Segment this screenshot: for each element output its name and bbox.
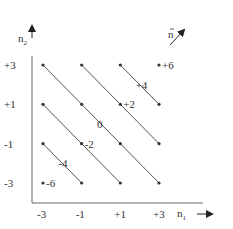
line-sum-label: +2: [123, 98, 135, 110]
x-tick-label: -3: [37, 208, 47, 220]
point-sum-label: +6: [162, 59, 174, 71]
line-sum-label: -2: [85, 138, 94, 150]
lattice-point: [157, 142, 160, 145]
lattice-point: [119, 103, 122, 106]
y-axis-label: n2: [18, 32, 28, 47]
x-tick-label: -1: [76, 208, 85, 220]
lattice-point: [41, 103, 44, 106]
lattice-point: [119, 142, 122, 145]
y-tick-label: -1: [4, 138, 13, 150]
lattice-point: [80, 63, 83, 66]
y-tick-label: -3: [4, 177, 14, 189]
lattice-point: [80, 142, 83, 145]
x-axis-label: n1: [177, 207, 187, 222]
lattice-diagram: n2 n1 n +3+1-1-3-3-1+1+3 +4+20-2-4+6-6: [0, 0, 233, 229]
line-sum-label: 0: [97, 118, 103, 130]
normal-vector-label: n: [168, 28, 174, 40]
lattice-point: [41, 181, 44, 184]
lattice-point: [41, 63, 44, 66]
lattice-point: [157, 181, 160, 184]
line-sum-label: -4: [58, 157, 68, 169]
lattice-point: [157, 103, 160, 106]
x-tick-label: +1: [114, 208, 126, 220]
lattice-point: [80, 181, 83, 184]
y-tick-label: +3: [4, 59, 16, 71]
point-sum-label: -6: [46, 177, 56, 189]
x-tick-label: +3: [153, 208, 165, 220]
lattice-point: [41, 142, 44, 145]
lattice-point: [80, 103, 83, 106]
lattice-point: [119, 181, 122, 184]
y-tick-label: +1: [4, 98, 16, 110]
line-sum-label: +4: [136, 79, 148, 91]
lattice-point: [119, 63, 122, 66]
lattice-point: [157, 63, 160, 66]
